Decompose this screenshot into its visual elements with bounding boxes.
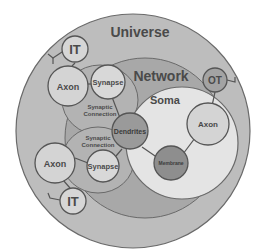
node-it-bottom: IT	[60, 188, 86, 214]
universe-label: Universe	[110, 24, 169, 40]
soma-label: Soma	[150, 94, 181, 106]
neural-universe-diagram: Universe Network Synaptic Connection Syn…	[0, 0, 265, 251]
node-dendrites: Dendrites	[112, 113, 148, 149]
dendrites-label: Dendrites	[114, 128, 146, 135]
node-axon-lower-left: Axon	[35, 143, 75, 183]
node-axon-right: Axon	[187, 103, 229, 145]
node-synapse-upper: Synapse	[91, 65, 125, 99]
node-it-top: IT	[62, 36, 88, 62]
it-bottom-label: IT	[67, 194, 79, 209]
membrane-label: Membrane	[158, 160, 183, 166]
synapse-lower-label: Synapse	[88, 162, 119, 171]
ot-label: OT	[208, 75, 222, 86]
axon-right-label: Axon	[198, 120, 218, 129]
synaptic-upper-label-1: Synaptic	[87, 104, 113, 110]
it-top-label: IT	[69, 42, 81, 57]
node-synapse-lower: Synapse	[87, 150, 119, 182]
axon-top-left-label: Axon	[57, 82, 80, 92]
node-membrane: Membrane	[154, 146, 188, 180]
synaptic-upper-label-2: Connection	[84, 111, 117, 117]
synaptic-lower-label-1: Synaptic	[85, 135, 111, 141]
axon-lower-left-label: Axon	[44, 159, 67, 169]
synapse-upper-label: Synapse	[93, 78, 124, 87]
node-ot: OT	[203, 68, 227, 92]
node-axon-top-left: Axon	[48, 66, 88, 106]
network-label: Network	[133, 68, 188, 84]
synaptic-lower-label-2: Connection	[82, 142, 115, 148]
